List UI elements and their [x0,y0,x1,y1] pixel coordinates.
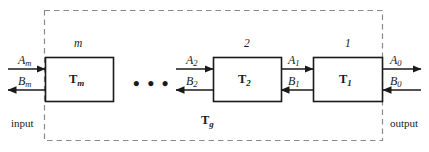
signal-A1-sub: 1 [295,58,299,68]
block-m-label-sub: m [77,78,84,88]
signal-B1-sub: 1 [295,79,299,89]
signal-label-Bm: Bm [18,75,31,89]
group-label-Tg: Tg [201,114,214,129]
signal-label-A0: A0 [390,54,402,68]
ellipsis-dots: • • • [133,74,170,93]
block-2-top-number: 2 [244,38,250,50]
signal-label-B1: B1 [288,75,300,89]
block-1-top-number: 1 [345,38,351,50]
signal-label-A1: A1 [288,54,300,68]
signal-label-B2: B2 [186,75,198,89]
signal-label-A2: A2 [186,54,198,68]
block-2-label-sub: 2 [246,78,251,88]
group-label-sub: g [209,119,214,129]
signal-B0-sub: 0 [397,79,401,89]
figure-canvas: • • • m 2 1 Tm T2 T1 Am Bm A2 B2 A1 B1 A… [0,0,429,152]
signal-B2-sub: 2 [193,79,197,89]
block-1-label-sub: 1 [347,78,352,88]
signal-Am-sub: m [25,58,31,68]
signal-label-B0: B0 [390,75,402,89]
block-m-label: Tm [69,73,84,88]
input-label: input [11,118,34,129]
block-m-top-number: m [74,38,82,50]
output-label: output [390,118,418,129]
block-2-label: T2 [238,73,251,88]
signal-label-Am: Am [18,54,31,68]
signal-A0-sub: 0 [397,58,401,68]
block-1-label: T1 [339,73,352,88]
diagram-vector-layer [0,0,429,152]
signal-Bm-sub: m [25,79,31,89]
signal-A2-sub: 2 [193,58,197,68]
